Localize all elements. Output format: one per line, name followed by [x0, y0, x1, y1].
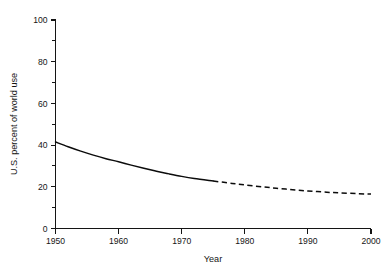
- y-tick-label: 60: [38, 99, 48, 109]
- x-tick-label: 1950: [46, 236, 65, 246]
- y-tick-label: 80: [38, 57, 48, 67]
- x-tick-label: 1990: [298, 236, 317, 246]
- y-axis-title: U.S. percent of world use: [9, 73, 19, 175]
- x-tick-label: 1980: [235, 236, 254, 246]
- y-tick-label: 40: [38, 140, 48, 150]
- line-chart: 020406080100 195019601970198019902000 Ye…: [0, 0, 381, 275]
- chart-container: 020406080100 195019601970198019902000 Ye…: [0, 0, 381, 275]
- y-tick-label: 0: [43, 224, 48, 234]
- x-tick-label: 1970: [172, 236, 191, 246]
- x-axis-title: Year: [204, 254, 222, 264]
- plot-background: [0, 0, 381, 275]
- x-tick-label: 1960: [109, 236, 128, 246]
- y-tick-label: 100: [33, 15, 48, 25]
- y-tick-label: 20: [38, 182, 48, 192]
- x-tick-label: 2000: [361, 236, 380, 246]
